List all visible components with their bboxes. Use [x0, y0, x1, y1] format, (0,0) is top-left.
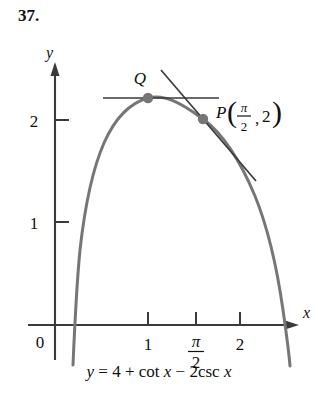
- exercise-number: 37.: [18, 6, 39, 26]
- origin-label: 0: [36, 333, 45, 352]
- equation-plus: +: [125, 362, 135, 381]
- y-ticks-group: [55, 120, 69, 222]
- y-tick-label-1: 1: [30, 214, 39, 233]
- point-p-label-group: P ( π 2 , 2 ): [215, 95, 282, 134]
- x-axis-label: x: [302, 304, 310, 321]
- equation-csc: csc: [198, 362, 220, 381]
- equation-constant: 4: [112, 362, 121, 381]
- point-q-dot: [143, 93, 153, 103]
- graph-svg: y x 2 1 1 2 π 2 0: [0, 0, 318, 418]
- point-p-dot: [198, 114, 208, 124]
- p-pi-numerator: π: [241, 100, 248, 115]
- y-axis-label: y: [44, 44, 54, 62]
- axes-group: [28, 62, 299, 360]
- equation-csc-coefficient: 2: [189, 362, 198, 381]
- p-open-paren: (: [227, 95, 237, 129]
- pi-numerator: π: [192, 332, 201, 351]
- p-pi-denominator: 2: [241, 119, 248, 134]
- y-axis-arrowhead: [51, 62, 60, 76]
- equation-y: y: [87, 362, 95, 381]
- x-tick-label-2: 2: [236, 335, 245, 354]
- y-tick-label-2: 2: [30, 112, 39, 131]
- equation-minus: −: [176, 362, 186, 381]
- x-ticks-group: [148, 312, 240, 325]
- point-p-label: P: [215, 103, 226, 122]
- equation-variable-2: x: [224, 362, 232, 381]
- x-tick-label-1: 1: [144, 335, 153, 354]
- point-q-label: Q: [134, 69, 146, 88]
- equation-caption: y = 4 + cot x − 2csc x: [0, 362, 318, 382]
- x-axis-arrowhead: [285, 321, 299, 330]
- p-close-paren: ): [272, 95, 282, 129]
- equation-equals: =: [98, 362, 108, 381]
- equation-cot: cot: [139, 362, 160, 381]
- p-y-value: 2: [262, 107, 271, 126]
- p-comma: ,: [255, 109, 259, 128]
- figure-container: 37. y x 2 1 1 2 π: [0, 0, 318, 418]
